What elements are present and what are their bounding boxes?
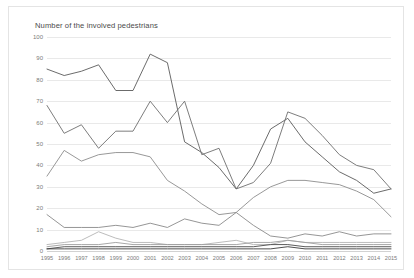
- x-tick-label-2009: 2009: [282, 255, 294, 261]
- plot-area: 0102030405060708090100 19951996199719981…: [47, 37, 391, 251]
- chart-title: Number of the involved pedestrians: [35, 21, 158, 30]
- y-tick-label-40: 40: [36, 162, 43, 168]
- y-tick-label-90: 90: [36, 55, 43, 61]
- x-tick-label-2001: 2001: [144, 255, 156, 261]
- line-series-7: [47, 245, 391, 249]
- x-tick-label-2006: 2006: [230, 255, 242, 261]
- x-tick-label-2010: 2010: [299, 255, 311, 261]
- y-tick-label-70: 70: [36, 98, 43, 104]
- y-tick-label-50: 50: [36, 141, 43, 147]
- x-tick-label-2014: 2014: [368, 255, 380, 261]
- x-tick-label-2011: 2011: [316, 255, 328, 261]
- x-tick-label-2002: 2002: [161, 255, 173, 261]
- x-tick-label-2005: 2005: [213, 255, 225, 261]
- x-tick-label-2008: 2008: [264, 255, 276, 261]
- line-series-1: [47, 54, 391, 193]
- line-series-6: [47, 240, 391, 246]
- y-tick-label-100: 100: [33, 34, 43, 40]
- x-tick-label-1999: 1999: [110, 255, 122, 261]
- series-lines: [47, 37, 391, 251]
- x-tick-label-2007: 2007: [247, 255, 259, 261]
- x-tick-label-1998: 1998: [92, 255, 104, 261]
- x-tick-label-2004: 2004: [196, 255, 208, 261]
- x-tick-label-1996: 1996: [58, 255, 70, 261]
- line-series-5: [47, 232, 391, 245]
- x-tick-label-2012: 2012: [333, 255, 345, 261]
- y-tick-label-10: 10: [36, 227, 43, 233]
- x-tick-label-1997: 1997: [75, 255, 87, 261]
- x-tick-label-2015: 2015: [385, 255, 397, 261]
- y-tick-label-80: 80: [36, 77, 43, 83]
- x-tick-label-2003: 2003: [178, 255, 190, 261]
- line-series-3: [47, 150, 391, 216]
- x-tick-label-1995: 1995: [41, 255, 53, 261]
- x-tick-label-2013: 2013: [350, 255, 362, 261]
- y-tick-label-20: 20: [36, 205, 43, 211]
- y-tick-label-60: 60: [36, 120, 43, 126]
- gridline-0: [47, 251, 391, 252]
- line-series-2: [47, 101, 391, 189]
- x-tick-label-2000: 2000: [127, 255, 139, 261]
- y-tick-label-30: 30: [36, 184, 43, 190]
- y-tick-label-0: 0: [40, 248, 43, 254]
- line-series-4: [47, 212, 391, 238]
- chart-card: Number of the involved pedestrians 01020…: [8, 6, 404, 270]
